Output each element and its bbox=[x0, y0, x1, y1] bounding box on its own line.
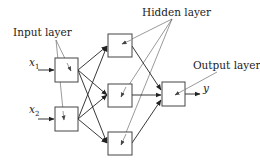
label-pointers bbox=[56, 19, 217, 145]
hidden-node-3 bbox=[108, 132, 132, 155]
input-node-1 bbox=[55, 58, 78, 82]
input-x1: x 1 bbox=[29, 56, 54, 71]
neural-network-diagram: Input layer Hidden layer Output layer x … bbox=[0, 0, 260, 165]
input-layer-label: Input layer bbox=[13, 26, 73, 38]
hidden-node-1 bbox=[108, 34, 132, 57]
output-layer-label: Output layer bbox=[193, 59, 260, 71]
input-node-2 bbox=[55, 107, 78, 131]
hidden-output-connections bbox=[132, 46, 161, 143]
hidden-layer-label: Hidden layer bbox=[142, 6, 212, 18]
hidden-node-2 bbox=[108, 84, 132, 107]
output-y-var: y bbox=[202, 82, 210, 94]
output-node bbox=[162, 82, 185, 106]
output-y: y bbox=[185, 82, 210, 94]
input-hidden-connections bbox=[78, 46, 107, 143]
input-x2-sub: 2 bbox=[35, 110, 39, 118]
input-x2: x 2 bbox=[29, 103, 54, 119]
